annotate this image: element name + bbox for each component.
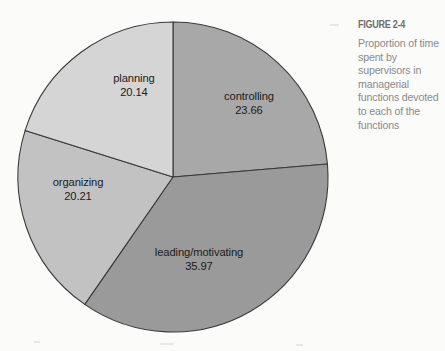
pie-chart: controlling23.66leading/motivating35.97o… bbox=[0, 0, 350, 351]
pie-chart-svg: controlling23.66leading/motivating35.97o… bbox=[0, 0, 350, 351]
pie-slice-label: planning bbox=[113, 72, 155, 84]
figure-container: controlling23.66leading/motivating35.97o… bbox=[0, 0, 445, 351]
pie-slice-label: leading/motivating bbox=[155, 246, 243, 258]
pie-slice-value: 20.14 bbox=[120, 86, 148, 98]
pie-slice-value: 35.97 bbox=[185, 260, 213, 272]
pie-slice-value: 23.66 bbox=[235, 104, 263, 116]
figure-caption-title: FIGURE 2-4 bbox=[358, 18, 432, 30]
pie-slice-label: organizing bbox=[53, 176, 104, 188]
figure-caption-body: Proportion of time spent by supervisors … bbox=[358, 37, 444, 132]
pie-slice-label: controlling bbox=[224, 90, 274, 102]
figure-caption: FIGURE 2-4 Proportion of time spent by s… bbox=[358, 18, 444, 132]
pie-slice-value: 20.21 bbox=[64, 190, 92, 202]
